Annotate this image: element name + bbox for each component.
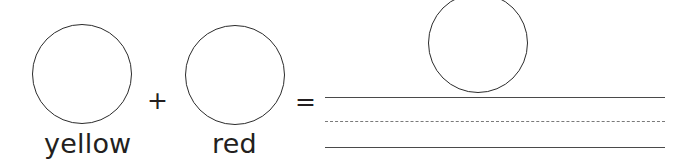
figure-canvas: yellow + red = bbox=[0, 0, 696, 163]
bottom-rule bbox=[325, 147, 665, 148]
circle-result bbox=[428, 0, 528, 93]
label-yellow: yellow bbox=[44, 130, 131, 157]
circle-red bbox=[185, 25, 285, 125]
label-red: red bbox=[212, 130, 257, 157]
middle-rule bbox=[325, 121, 665, 122]
circle-yellow bbox=[32, 24, 132, 124]
plus-operator: + bbox=[147, 88, 168, 113]
equals-operator: = bbox=[295, 89, 316, 114]
top-rule bbox=[325, 97, 665, 98]
